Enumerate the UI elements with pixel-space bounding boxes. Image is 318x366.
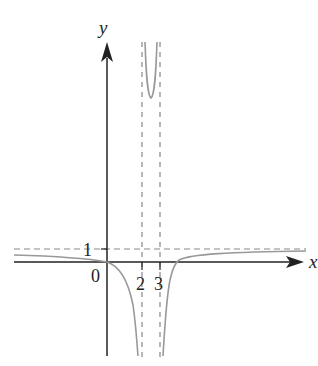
chart-canvas: y x 0 2 3 1 (0, 0, 318, 366)
curve-right-branch (163, 251, 306, 356)
curve-middle-branch (145, 42, 157, 98)
x-axis-label: x (308, 251, 318, 272)
origin-label: 0 (91, 266, 100, 286)
tick-label-2: 2 (136, 274, 145, 294)
tick-label-1: 1 (83, 240, 92, 260)
curve-left-branch (14, 255, 138, 356)
y-axis-label: y (97, 17, 108, 38)
tick-label-3: 3 (154, 274, 163, 294)
